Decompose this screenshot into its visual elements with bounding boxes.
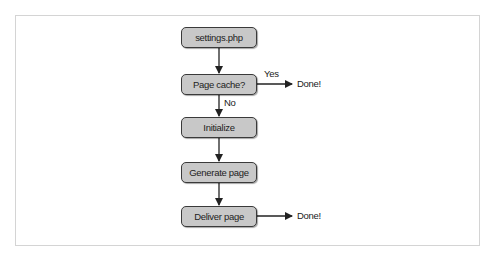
edge-label-no: No [224,97,236,108]
node-label: Deliver page [194,211,244,222]
node-label: Page cache? [193,79,245,90]
node-label: Generate page [189,167,248,178]
node-deliver-page: Deliver page [181,206,257,227]
node-label: Initialize [203,122,234,133]
node-initialize: Initialize [181,117,257,138]
terminal-done-cache: Done! [297,78,321,89]
edge-label-yes: Yes [264,68,279,79]
node-settings-php: settings.php [181,27,257,48]
node-page-cache: Page cache? [181,74,257,95]
terminal-done-deliver: Done! [297,210,321,221]
node-generate-page: Generate page [181,162,257,183]
node-label: settings.php [195,32,243,43]
